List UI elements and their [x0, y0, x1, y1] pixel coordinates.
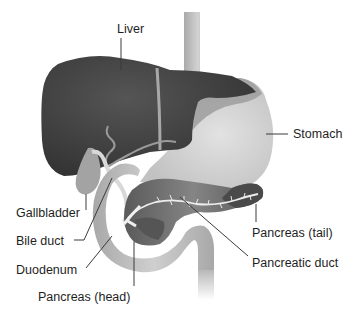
label-pancreas-tail: Pancreas (tail) [252, 226, 333, 240]
label-bile-duct: Bile duct [16, 234, 64, 248]
label-pancreas-head: Pancreas (head) [38, 290, 130, 304]
label-gallbladder: Gallbladder [16, 206, 80, 220]
label-duodenum: Duodenum [16, 263, 77, 277]
label-pancreatic-duct: Pancreatic duct [252, 256, 338, 270]
label-stomach: Stomach [293, 127, 342, 141]
label-liver: Liver [117, 22, 144, 36]
